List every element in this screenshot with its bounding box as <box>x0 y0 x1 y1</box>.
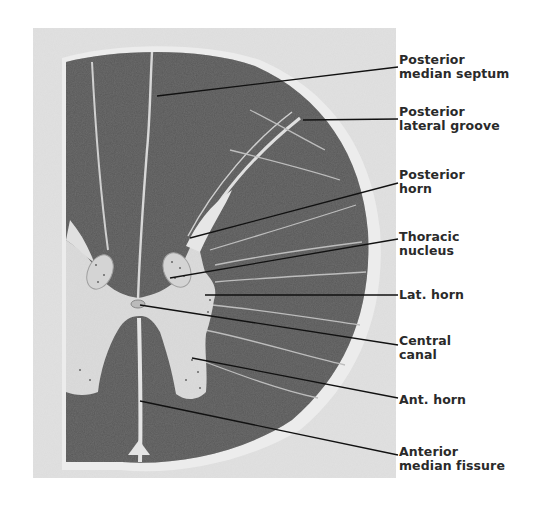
label-lat-horn: Lat. horn <box>399 288 464 302</box>
label-line: Anterior <box>399 445 505 459</box>
label-line: Posterior <box>399 168 465 182</box>
label-posterior-lateral-groove: Posterior lateral groove <box>399 105 500 133</box>
central-canal-shape <box>131 300 145 308</box>
label-anterior-median-fissure: Anterior median fissure <box>399 445 505 473</box>
label-thoracic-nucleus: Thoracic nucleus <box>399 230 460 258</box>
label-central-canal: Central canal <box>399 334 451 362</box>
label-line: nucleus <box>399 244 460 258</box>
label-ant-horn: Ant. horn <box>399 393 466 407</box>
label-posterior-median-septum: Posterior median septum <box>399 53 510 81</box>
label-line: Posterior <box>399 53 510 67</box>
label-line: lateral groove <box>399 119 500 133</box>
label-line: Thoracic <box>399 230 460 244</box>
label-line: median septum <box>399 67 510 81</box>
label-line: canal <box>399 348 451 362</box>
label-line: Central <box>399 334 451 348</box>
label-line: Ant. horn <box>399 393 466 407</box>
label-posterior-horn: Posterior horn <box>399 168 465 196</box>
label-line: horn <box>399 182 465 196</box>
label-line: Lat. horn <box>399 288 464 302</box>
label-line: Posterior <box>399 105 500 119</box>
label-line: median fissure <box>399 459 505 473</box>
